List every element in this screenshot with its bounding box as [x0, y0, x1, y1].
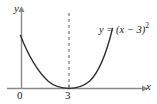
curve-equation-label: y = (x − 3)2: [99, 22, 149, 35]
graph-canvas: [0, 0, 157, 104]
equation-base-text: y = (x − 3): [99, 24, 145, 35]
x-tick-label-3: 3: [65, 90, 71, 101]
x-axis-label: x: [146, 81, 151, 92]
y-axis-arrowhead: [18, 6, 24, 12]
equation-exponent-text: 2: [145, 21, 149, 30]
y-axis-label: y: [14, 3, 19, 14]
x-tick-label-0: 0: [17, 90, 23, 101]
parabola-curve: [21, 29, 113, 89]
parabola-figure: y x 0 3 y = (x − 3)2: [0, 0, 157, 104]
